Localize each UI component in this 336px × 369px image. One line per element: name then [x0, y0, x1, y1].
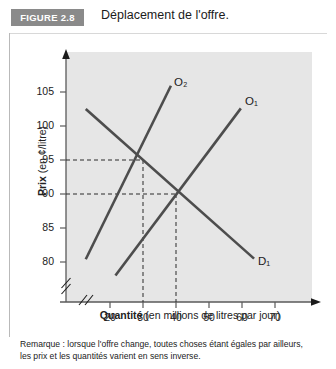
- figure-header: FIGURE 2.8 Déplacement de l'offre.: [0, 4, 336, 32]
- x-axis-title-unit: (en millions de litres par jour): [142, 309, 280, 321]
- curve-label-d1: D₁: [258, 255, 270, 267]
- figure-number-badge: FIGURE 2.8: [11, 9, 84, 26]
- curve-label-o1: O₁: [245, 95, 258, 107]
- curve-label-o2: O₂: [174, 76, 187, 88]
- x-axis-title-bold: Quantité: [100, 309, 143, 321]
- y-axis-title-unit: (en ¢/litre): [36, 126, 48, 176]
- y-tick-label-105: 105: [28, 85, 54, 97]
- y-tick-label-80: 80: [28, 255, 54, 267]
- x-axis-title: Quantité (en millions de litres par jour…: [60, 309, 320, 321]
- y-axis-title-bold: Prix: [36, 176, 48, 196]
- figure-title: Déplacement de l'offre.: [101, 8, 229, 22]
- curve-supply-o1: [115, 108, 240, 275]
- y-tick-label-85: 85: [28, 221, 54, 233]
- x-axis-break-icon: [79, 295, 93, 305]
- chart-plot-region: 105 100 95 90 85 80 20 30 40 50 60 70 Pr…: [0, 33, 336, 325]
- remark-line-1: Remarque : lorsque l'offre change, toute…: [20, 338, 320, 350]
- x-axis-arrow-icon: [311, 298, 321, 306]
- y-axis-title: Prix (en ¢/litre): [36, 101, 48, 221]
- curve-demand-d1: [86, 109, 254, 259]
- figure-remark: Remarque : lorsque l'offre change, toute…: [20, 338, 320, 362]
- chart-svg: [0, 33, 336, 325]
- figure-container: FIGURE 2.8 Déplacement de l'offre.: [0, 0, 336, 369]
- y-axis-arrow-icon: [62, 49, 70, 59]
- remark-line-2: les prix et les quantités varient en sen…: [20, 350, 320, 362]
